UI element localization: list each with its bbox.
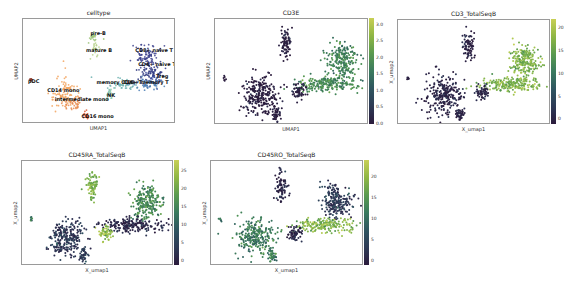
plot-area [397,19,550,124]
colorbar [369,18,374,124]
plot-area [214,18,368,124]
y-axis-label: UMAP2 [13,51,19,91]
colorbar-tick: 20 [181,186,187,191]
colorbar-tick: 3.0 [376,22,383,27]
colorbar-tick: 5 [558,94,561,99]
scatter-points [215,19,368,124]
colorbar-tick: 10 [558,71,564,76]
x-axis-label: X_umap1 [397,126,550,132]
colorbar-tick: 20 [558,25,564,30]
cluster-label: pDC [28,78,40,85]
cluster-label: mature B [86,47,112,53]
panel-title: CD45RO_TotalSeqB [210,151,363,158]
colorbar-tick: 1.0 [376,88,383,93]
panel-title: CD3E [214,9,368,16]
scatter-points [211,161,363,265]
y-axis-label: X_umap2 [12,193,18,233]
colorbar-tick: 5 [181,240,184,245]
colorbar-tick: 2.5 [376,38,383,43]
x-axis-label: X_umap1 [21,267,173,273]
colorbar-tick: 15 [181,204,187,209]
scatter-points [22,161,173,265]
colorbar-tick: 20 [371,174,377,179]
colorbar-tick: 0 [371,258,374,263]
colorbar-tick: 15 [371,195,377,200]
colorbar-tick: 0 [181,258,184,263]
colorbar [551,19,556,124]
cluster-label: CD8+ naive T [135,47,173,53]
plot-area [21,160,173,265]
colorbar-tick: 10 [371,216,377,221]
colorbar-tick: 0.0 [376,121,383,126]
cluster-label: CD8+ memory T [123,79,169,86]
x-axis-label: UMAP1 [214,126,368,132]
colorbar-tick: 2.0 [376,55,383,60]
y-axis-label: X_umap2 [201,193,207,233]
panel-title: CD3_TotalSeqB [397,10,550,17]
colorbar [174,160,179,265]
colorbar [364,160,369,265]
scatter-points [398,20,550,124]
colorbar-tick: 15 [558,48,564,53]
colorbar-tick: 0.5 [376,104,383,109]
colorbar-tick: 10 [181,222,187,227]
panel-title: CD45RA_TotalSeqB [21,151,173,158]
colorbar-tick: 5 [371,237,374,242]
cluster-label: CD4+ naive T [138,61,175,67]
y-axis-label: UMAP2 [205,51,211,91]
y-axis-label: X_umap2 [388,52,394,92]
panel-title: celltype [22,9,175,16]
plot-area: pre-Bmature BCD8+ naive TCD4+ naive TTre… [22,18,175,123]
colorbar-tick: 25 [181,168,187,173]
cluster-label: pre-B [91,30,107,37]
colorbar-tick: 0 [558,116,561,121]
plot-area [210,160,363,265]
scatter-points: pre-Bmature BCD8+ naive TCD4+ naive TTre… [23,19,175,123]
colorbar-tick: 1.5 [376,71,383,76]
x-axis-label: UMAP1 [22,125,175,131]
x-axis-label: X_umap1 [210,267,363,273]
cluster-label: CD14 mono [47,87,80,93]
cluster-label: CD16 mono [82,113,115,119]
cluster-label: intermediate mono [55,96,110,102]
